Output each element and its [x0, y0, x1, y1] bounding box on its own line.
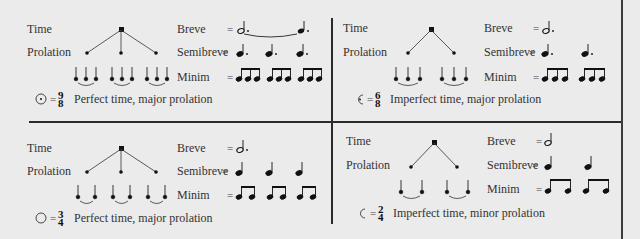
- equals-sign: =: [536, 183, 542, 195]
- label-prolation: Prolation: [346, 158, 390, 173]
- label-breve: Breve: [487, 134, 516, 149]
- denominator: 4: [58, 218, 64, 226]
- equals-sign: =: [227, 71, 233, 83]
- label-minim: Minim: [177, 188, 210, 203]
- denominator: 4: [378, 213, 384, 221]
- denominator: 8: [58, 99, 64, 107]
- right-border: [621, 0, 623, 239]
- label-prolation: Prolation: [27, 45, 71, 60]
- equals-sign: =: [227, 189, 233, 201]
- horizontal-divider: [29, 121, 621, 123]
- time-signature: 2 4: [378, 205, 384, 221]
- label-time: Time: [27, 22, 52, 37]
- equals-sign: =: [50, 212, 56, 224]
- equals-sign: =: [533, 71, 539, 83]
- time-signature: 3 4: [58, 210, 64, 226]
- label-prolation: Prolation: [27, 164, 71, 179]
- equals-sign: =: [536, 135, 542, 147]
- label-time: Time: [27, 141, 52, 156]
- label-minim: Minim: [484, 70, 517, 85]
- caption: Perfect time, major prolation: [74, 211, 213, 226]
- caption: Imperfect time, minor prolation: [393, 206, 545, 221]
- label-time: Time: [343, 21, 368, 36]
- equals-sign: =: [222, 46, 228, 58]
- label-semibreve: Semibreve: [487, 158, 538, 173]
- label-semibreve: Semibreve: [177, 45, 228, 60]
- half-circle-sign-icon: [0, 0, 1, 1]
- label-minim: Minim: [177, 70, 210, 85]
- equals-sign: =: [227, 23, 233, 35]
- equals-sign: =: [370, 207, 376, 219]
- caption: Imperfect time, major prolation: [390, 92, 541, 107]
- equals-sign: =: [533, 22, 539, 34]
- time-signature: 6 8: [375, 91, 381, 107]
- equals-sign: =: [227, 142, 233, 154]
- equals-sign: =: [529, 46, 535, 58]
- equals-sign: =: [50, 93, 56, 105]
- label-semibreve: Semibreve: [177, 164, 228, 179]
- label-semibreve: Semibreve: [484, 45, 535, 60]
- label-breve: Breve: [177, 141, 206, 156]
- label-minim: Minim: [487, 182, 520, 197]
- time-signature: 9 8: [58, 91, 64, 107]
- equals-sign: =: [222, 165, 228, 177]
- label-prolation: Prolation: [343, 45, 387, 60]
- label-breve: Breve: [484, 21, 513, 36]
- denominator: 8: [375, 99, 381, 107]
- vertical-divider: [331, 18, 333, 224]
- label-time: Time: [346, 134, 371, 149]
- equals-sign: =: [367, 93, 373, 105]
- equals-sign: =: [532, 159, 538, 171]
- label-breve: Breve: [177, 22, 206, 37]
- caption: Perfect time, major prolation: [74, 92, 213, 107]
